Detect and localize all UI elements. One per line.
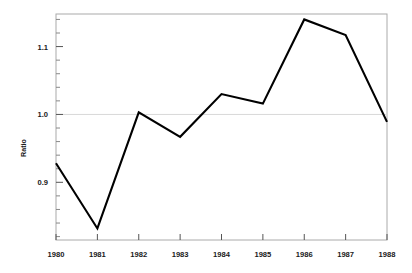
x-tick-label: 1985 [254,250,272,259]
chart-container: 1.11.00.9 198019811982198319841985198619… [0,0,412,273]
x-tick-label: 1982 [130,250,147,259]
line-chart: 1.11.00.9 198019811982198319841985198619… [0,0,412,273]
y-tick-label: 1.0 [37,110,48,119]
chart-background [0,0,412,273]
x-tick-label: 1984 [213,250,231,259]
x-axis-tick-labels: 198019811982198319841985198619871988 [48,250,396,259]
x-tick-label: 1980 [48,250,65,259]
y-tick-label: 0.9 [37,178,48,187]
x-tick-label: 1983 [172,250,189,259]
y-tick-label: 1.1 [37,43,48,52]
x-tick-label: 1981 [89,250,107,259]
x-tick-label: 1988 [379,250,396,259]
y-axis-title: Ratio [19,138,28,157]
x-tick-label: 1987 [337,250,354,259]
x-tick-label: 1986 [296,250,313,259]
